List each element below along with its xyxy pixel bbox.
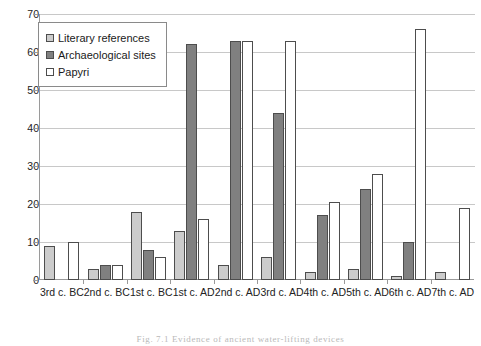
legend-item[interactable]: Papyri	[46, 63, 156, 80]
x-tick-label: 2nd c. BC	[84, 286, 130, 298]
y-tick-mark-0	[33, 280, 38, 281]
bar[interactable]	[360, 189, 371, 280]
y-tick-mark-40	[33, 128, 38, 129]
bar[interactable]	[218, 265, 229, 280]
bar[interactable]	[317, 215, 328, 280]
y-tick-mark-20	[33, 204, 38, 205]
bar[interactable]	[372, 174, 383, 280]
bar[interactable]	[174, 231, 185, 280]
legend-item-label: Archaeological sites	[58, 49, 156, 61]
bar-group	[214, 14, 257, 280]
legend-swatch-icon	[46, 68, 54, 76]
x-tick-label: 3rd c. AD	[260, 286, 303, 298]
bar-group	[170, 14, 213, 280]
bar[interactable]	[329, 202, 340, 280]
y-tick-mark-50	[33, 90, 38, 91]
x-tick-label: 4th c. AD	[304, 286, 347, 298]
bar-group	[344, 14, 387, 280]
bar[interactable]	[198, 219, 209, 280]
bar[interactable]	[285, 41, 296, 280]
legend-swatch-icon	[46, 51, 54, 59]
bar[interactable]	[112, 265, 123, 280]
bar[interactable]	[391, 276, 402, 280]
bar-group	[387, 14, 430, 280]
bar[interactable]	[143, 250, 154, 280]
x-tick-label: 6th c. AD	[389, 286, 432, 298]
bar[interactable]	[88, 269, 99, 280]
legend-swatch-icon	[46, 34, 54, 42]
x-axis-labels: 3rd c. BC2nd c. BC1st c. BC1st c. AD2nd …	[40, 286, 474, 298]
bar-chart: 706050403020100 3rd c. BC2nd c. BC1st c.…	[0, 0, 481, 346]
bar[interactable]	[459, 208, 470, 280]
bar[interactable]	[273, 113, 284, 280]
bar-group	[300, 14, 343, 280]
bar[interactable]	[230, 41, 241, 280]
bar-group	[431, 14, 474, 280]
bar[interactable]	[348, 269, 359, 280]
legend-item[interactable]: Archaeological sites	[46, 46, 156, 63]
x-tick-label: 3rd c. BC	[40, 286, 84, 298]
legend-item-label: Papyri	[58, 66, 89, 78]
bar[interactable]	[242, 41, 253, 280]
y-tick-mark-30	[33, 166, 38, 167]
x-tick-label: 1st c. AD	[172, 286, 214, 298]
legend-item[interactable]: Literary references	[46, 29, 156, 46]
bar[interactable]	[44, 246, 55, 280]
x-tick-label: 1st c. BC	[130, 286, 173, 298]
bar[interactable]	[305, 272, 316, 280]
bar[interactable]	[261, 257, 272, 280]
bar[interactable]	[155, 257, 166, 280]
figure-caption: Fig. 7.1 Evidence of ancient water-lifti…	[0, 334, 481, 344]
bar[interactable]	[100, 265, 111, 280]
x-tick-label: 7th c. AD	[431, 286, 474, 298]
bar[interactable]	[415, 29, 426, 280]
legend: Literary referencesArchaeological sitesP…	[38, 22, 167, 87]
bar[interactable]	[68, 242, 79, 280]
y-tick-mark-70	[33, 14, 38, 15]
legend-item-label: Literary references	[58, 32, 150, 44]
y-tick-mark-10	[33, 242, 38, 243]
x-tick-label: 2nd c. AD	[215, 286, 261, 298]
bar[interactable]	[186, 44, 197, 280]
bar[interactable]	[131, 212, 142, 280]
bar[interactable]	[435, 272, 446, 280]
bar[interactable]	[403, 242, 414, 280]
x-tick-label: 5th c. AD	[346, 286, 389, 298]
bar-group	[257, 14, 300, 280]
y-axis: 706050403020100	[0, 0, 39, 346]
